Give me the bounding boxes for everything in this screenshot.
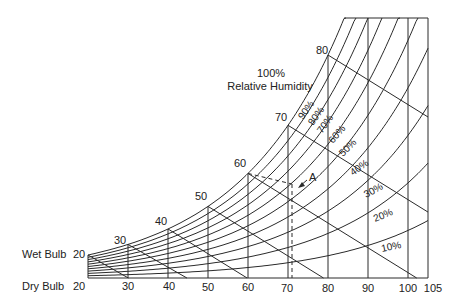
wet-bulb-tick-50: 50 (195, 190, 207, 202)
rh-title-percent: 100% (257, 67, 285, 79)
wet-bulb-tick-70: 70 (275, 111, 287, 123)
wet-bulb-tick-20: 20 (73, 248, 85, 260)
dry-bulb-tick-80: 80 (322, 282, 334, 294)
wet-bulb-tick-40: 40 (155, 215, 167, 227)
wet-bulb-axis-label: Wet Bulb (22, 248, 66, 260)
wet-bulb-tick-80: 80 (316, 44, 328, 56)
dry-bulb-tick-30: 30 (122, 280, 134, 292)
dry-bulb-tick-105: 105 (424, 282, 442, 294)
dry-bulb-tick-40: 40 (163, 280, 175, 292)
psychrometric-chart: Wet Bulb Dry Bulb 20 30 40 50 60 70 80 2… (0, 0, 457, 307)
dry-bulb-tick-50: 50 (202, 281, 214, 293)
wet-bulb-line-30 (128, 244, 187, 278)
dry-bulb-axis-label: Dry Bulb (22, 280, 64, 292)
rh-label-10: 10% (380, 239, 402, 254)
wet-bulb-tick-60: 60 (234, 157, 246, 169)
dry-bulb-tick-20: 20 (73, 280, 85, 292)
rh-curve-100 (88, 18, 346, 255)
chart-lines (88, 18, 428, 278)
dry-bulb-tick-70: 70 (281, 282, 293, 294)
dry-bulb-tick-90: 90 (362, 282, 374, 294)
rh-title-text: Relative Humidity (227, 80, 313, 92)
dry-bulb-tick-60: 60 (242, 281, 254, 293)
point-a-label: A (309, 171, 317, 183)
wet-bulb-tick-30: 30 (114, 234, 126, 246)
dry-bulb-tick-100: 100 (399, 282, 417, 294)
rh-label-50: 50% (337, 136, 359, 158)
